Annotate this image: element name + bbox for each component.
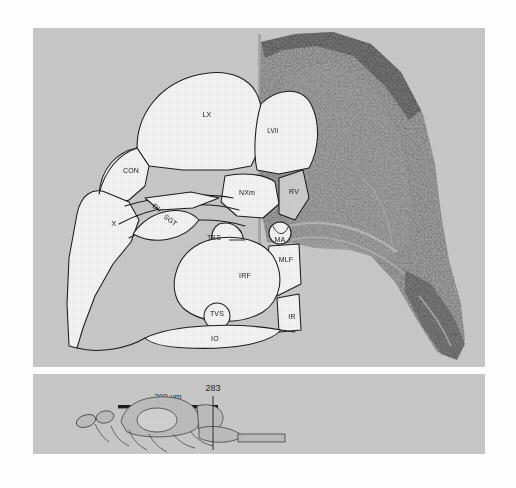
region-label-TVS: TVS (210, 310, 224, 317)
region-label-CON: CON (123, 167, 139, 174)
figure-root: LXLVIICONNXmRVXDVSGTTBSMAMLFIRFTVSIRIO 2… (0, 0, 516, 488)
inset-panel-canvas: 200 µm (33, 374, 485, 454)
region-label-IO: IO (211, 335, 219, 342)
region-label-RV: RV (289, 188, 299, 195)
brainstem-section-figure: LXLVIICONNXmRVXDVSGTTBSMAMLFIRFTVSIRIO (33, 28, 485, 367)
region-label-X: X (112, 220, 117, 227)
scale-and-level-figure: 200 µm (33, 374, 485, 454)
region-label-LX: LX (203, 111, 212, 118)
region-label-IR: IR (288, 313, 295, 320)
region-label-LVII: LVII (267, 127, 279, 134)
region-LVII (255, 91, 318, 174)
level-inset-panel: 200 µm (33, 374, 485, 454)
main-section-panel: LXLVIICONNXmRVXDVSGTTBSMAMLFIRFTVSIRIO (33, 28, 485, 367)
brain-tectum-highlight (137, 408, 177, 432)
main-panel-canvas: LXLVIICONNXmRVXDVSGTTBSMAMLFIRFTVSIRIO (33, 28, 485, 367)
section-number-label: 283 (205, 383, 220, 393)
region-label-MLF: MLF (279, 256, 294, 263)
brain-spinal-cord (238, 434, 285, 442)
region-label-MA: MA (275, 236, 286, 243)
region-label-TBS: TBS (207, 234, 221, 241)
region-label-IRF: IRF (239, 272, 251, 279)
region-label-NXm: NXm (239, 189, 255, 196)
